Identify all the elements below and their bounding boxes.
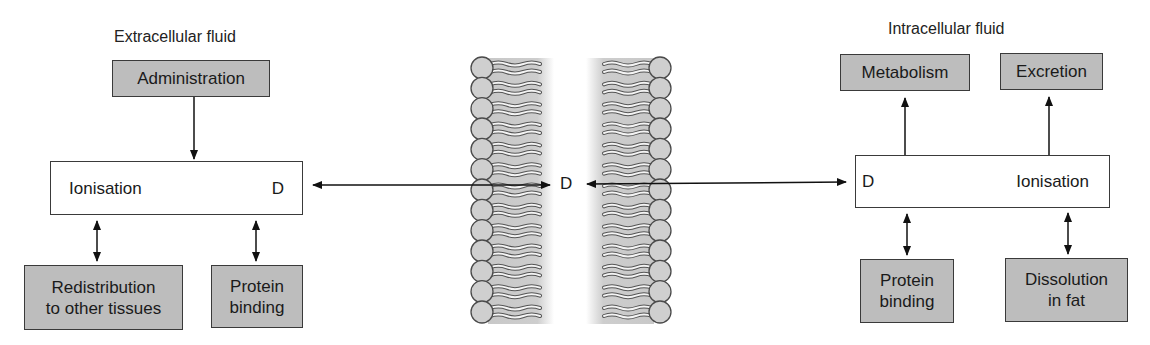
intracellular-fluid-label: Intracellular fluid	[888, 20, 1005, 38]
extracellular-equilibrium-box: Ionisation D	[50, 161, 303, 215]
administration-box: Administration	[112, 60, 270, 97]
protein-binding-box-intracellular: Protein binding	[860, 259, 954, 323]
intracellular-equilibrium-box: D Ionisation	[855, 155, 1110, 208]
metabolism-label: Metabolism	[862, 62, 949, 83]
dissolution-in-fat-box: Dissolution in fat	[1005, 258, 1128, 322]
dissolution-label: Dissolution in fat	[1025, 269, 1108, 311]
metabolism-box: Metabolism	[840, 54, 970, 91]
extracellular-fluid-label: Extracellular fluid	[114, 28, 236, 46]
arrow-membrane-to-intracellular	[587, 182, 846, 184]
intracellular-d-label: D	[862, 171, 874, 192]
excretion-box: Excretion	[1000, 53, 1103, 90]
administration-label: Administration	[137, 68, 245, 89]
redistribution-label: Redistribution to other tissues	[46, 277, 161, 319]
intracellular-ionisation-label: Ionisation	[1016, 171, 1089, 192]
protein-binding-box-extracellular: Protein binding	[211, 265, 303, 328]
drug-distribution-diagram: Extracellular fluid Administration Ionis…	[0, 0, 1150, 345]
protein-binding-label-intracellular: Protein binding	[880, 270, 935, 312]
redistribution-box: Redistribution to other tissues	[24, 265, 183, 330]
extracellular-ionisation-label: Ionisation	[69, 178, 142, 199]
extracellular-d-label: D	[272, 178, 284, 199]
membrane-d-label: D	[560, 174, 572, 194]
excretion-label: Excretion	[1016, 61, 1087, 82]
protein-binding-label-extracellular: Protein binding	[230, 276, 285, 318]
